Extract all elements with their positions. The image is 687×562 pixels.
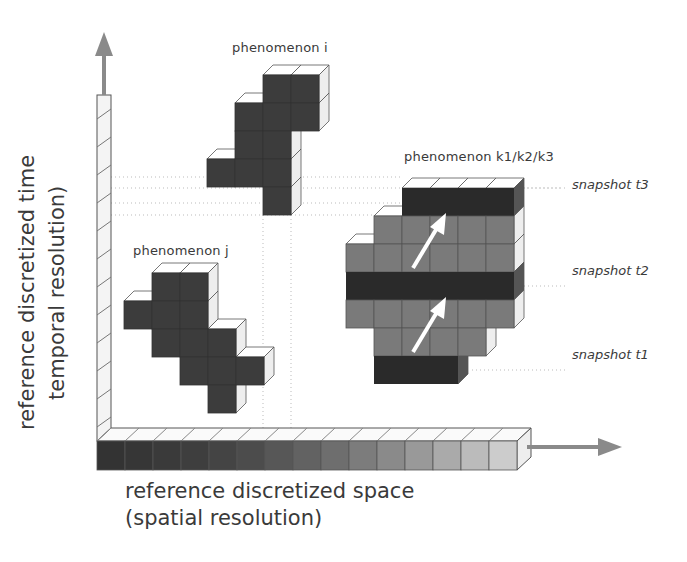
cell-gray — [486, 216, 514, 244]
space-axis-cell — [405, 441, 433, 470]
cell-dark — [152, 273, 180, 301]
phenomenon-j-cells — [124, 263, 274, 413]
cell-dark — [152, 301, 180, 329]
cell-gray — [374, 328, 402, 356]
phenomenon-i-cells — [207, 65, 329, 215]
cell-band — [458, 188, 486, 216]
cell-gray — [486, 300, 514, 328]
cell-dark — [263, 131, 291, 159]
cell-dark — [208, 329, 236, 357]
space-axis-cell — [181, 441, 209, 470]
cell-band — [430, 356, 458, 384]
cell-gray — [430, 244, 458, 272]
cell-gray — [458, 244, 486, 272]
cell-dark — [236, 357, 264, 385]
space-axis-top-face — [97, 428, 531, 441]
cell-band — [402, 188, 430, 216]
cell-gray — [402, 300, 430, 328]
cell-dark — [180, 301, 208, 329]
space-axis-cell — [433, 441, 461, 470]
cell-gray — [374, 216, 402, 244]
cell-band — [486, 272, 514, 300]
cell-dark — [263, 75, 291, 103]
space-axis-cell — [461, 441, 489, 470]
cell-dark — [263, 103, 291, 131]
cell-dark — [263, 159, 291, 187]
cell-gray — [346, 300, 374, 328]
space-axis-cell — [489, 441, 517, 470]
cell-gray — [458, 328, 486, 356]
cell-gray — [486, 244, 514, 272]
cell-dark — [263, 187, 291, 215]
snapshot-t3-label: snapshot t3 — [572, 177, 649, 192]
phenomenon-k-cells — [346, 178, 524, 384]
cell-gray — [402, 216, 430, 244]
cell-dark — [208, 357, 236, 385]
cell-dark — [180, 273, 208, 301]
phenomenon-i-label: phenomenon i — [232, 40, 328, 55]
cell-gray — [458, 216, 486, 244]
snapshot-t2-label: snapshot t2 — [572, 263, 649, 278]
cell-gray — [458, 300, 486, 328]
space-axis-cell — [153, 441, 181, 470]
cell-band — [402, 356, 430, 384]
phenomena-cells — [124, 65, 524, 413]
space-axis-arrow-head — [598, 438, 622, 456]
space-axis-cell — [293, 441, 321, 470]
cell-band — [374, 272, 402, 300]
space-axis-label-line1: reference discretized space — [125, 478, 414, 504]
cell-dark — [235, 159, 263, 187]
cell-dark — [152, 329, 180, 357]
space-axis-cell — [125, 441, 153, 470]
time-axis-label-line2: temporal resolution) — [44, 186, 70, 400]
time-axis-label-line1: reference discretized time — [14, 155, 40, 430]
cell-band — [402, 272, 430, 300]
cell-band — [374, 356, 402, 384]
cell-dark — [207, 159, 235, 187]
cell-gray — [346, 244, 374, 272]
space-axis-cell — [349, 441, 377, 470]
time-axis-arrow-head — [95, 32, 113, 56]
space-axis-cell — [97, 441, 125, 470]
space-axis-cell — [209, 441, 237, 470]
cell-band — [346, 272, 374, 300]
cell-dark — [235, 103, 263, 131]
space-axis-cell — [237, 441, 265, 470]
space-axis-cell — [377, 441, 405, 470]
cell-gray — [430, 328, 458, 356]
space-axis-label-line2: (spatial resolution) — [125, 505, 322, 531]
cell-band — [486, 188, 514, 216]
snapshot-t1-label: snapshot t1 — [572, 347, 649, 362]
phenomenon-j-label: phenomenon j — [133, 243, 229, 258]
cell-band — [430, 188, 458, 216]
cell-dark — [124, 301, 152, 329]
cell-dark — [291, 103, 319, 131]
space-axis-cell — [321, 441, 349, 470]
cell-dark — [180, 329, 208, 357]
time-axis-column — [97, 95, 111, 441]
cell-gray — [374, 300, 402, 328]
cell-dark — [235, 131, 263, 159]
cell-dark — [180, 357, 208, 385]
cell-band — [430, 272, 458, 300]
space-axis-cell — [265, 441, 293, 470]
cell-gray — [374, 244, 402, 272]
phenomenon-k-label: phenomenon k1/k2/k3 — [404, 149, 554, 164]
cell-dark — [208, 385, 236, 413]
cell-dark — [291, 75, 319, 103]
cell-band — [458, 272, 486, 300]
